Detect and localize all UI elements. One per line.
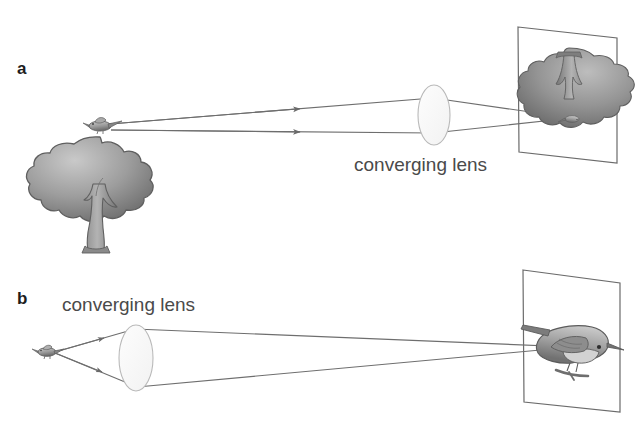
panel-b-group xyxy=(32,270,624,412)
optics-figure: a b converging lens converging lens xyxy=(0,0,635,433)
panel-b-lens xyxy=(119,325,153,391)
panel-a-lens xyxy=(418,85,450,145)
panel-a-bird-object xyxy=(83,118,122,134)
panel-a-group xyxy=(27,27,635,253)
panel-b-lens-caption: converging lens xyxy=(62,295,195,314)
panel-a-lens-caption: converging lens xyxy=(354,155,487,174)
panel-b-letter: b xyxy=(17,290,27,307)
panel-b-bird-object xyxy=(32,345,64,359)
panel-a-tree-object xyxy=(27,137,154,253)
panel-a-rays xyxy=(110,98,572,133)
figure-canvas xyxy=(0,0,635,433)
panel-a-letter: a xyxy=(17,60,26,77)
